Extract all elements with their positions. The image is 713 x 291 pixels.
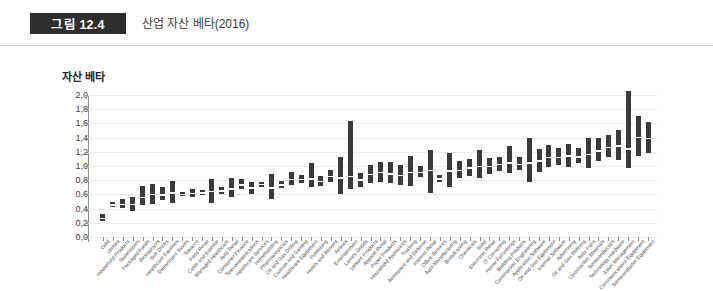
median-marker: [537, 160, 542, 162]
y-axis-line: [88, 95, 89, 242]
median-marker: [418, 172, 423, 174]
range-bar: [160, 187, 165, 200]
range-bar: [487, 158, 492, 174]
range-bar: [110, 202, 115, 208]
y-axis-tick-mark: [85, 209, 88, 210]
range-bar: [200, 190, 205, 195]
median-marker: [309, 178, 314, 180]
y-axis-tick-mark: [85, 152, 88, 153]
y-axis-tick-mark: [85, 237, 88, 238]
range-bar: [309, 163, 314, 187]
median-marker: [358, 179, 363, 181]
median-marker: [150, 194, 155, 196]
range-bar: [239, 179, 244, 189]
range-bar: [180, 192, 185, 196]
y-axis-tick-mark: [85, 223, 88, 224]
range-bar: [299, 175, 304, 184]
range-bar: [368, 165, 373, 183]
range-bar: [576, 148, 581, 163]
gridline: [88, 95, 657, 96]
median-marker: [556, 157, 561, 159]
range-bar: [586, 138, 591, 169]
range-bar: [328, 170, 333, 181]
median-marker: [170, 192, 175, 194]
median-marker: [457, 170, 462, 172]
range-bar: [120, 199, 125, 208]
range-bar: [289, 172, 294, 185]
range-bar: [566, 144, 571, 167]
median-marker: [507, 162, 512, 164]
plot-area: [88, 90, 657, 242]
range-bar: [358, 173, 363, 186]
range-bar: [378, 162, 383, 181]
range-bar: [209, 179, 214, 202]
median-marker: [576, 156, 581, 158]
median-marker: [140, 197, 145, 199]
range-bar: [398, 165, 403, 186]
median-marker: [428, 170, 433, 172]
median-marker: [120, 204, 125, 206]
median-marker: [408, 172, 413, 174]
range-bar: [100, 214, 105, 221]
range-bar: [626, 91, 631, 168]
gridline: [88, 152, 657, 153]
median-marker: [338, 177, 343, 179]
median-marker: [130, 204, 135, 206]
median-marker: [546, 157, 551, 159]
range-bar: [636, 116, 641, 156]
range-bar: [130, 197, 135, 210]
median-marker: [487, 166, 492, 168]
range-bar: [418, 166, 423, 177]
range-bar: [318, 176, 323, 186]
median-marker: [209, 191, 214, 193]
chart-panel: 자산 베타 0,00,20,40,60,81,01,21,41,61,82,0 …: [0, 46, 713, 278]
gridline: [88, 138, 657, 139]
range-bar: [606, 135, 611, 158]
median-marker: [160, 194, 165, 196]
median-marker: [616, 145, 621, 147]
range-bar: [646, 122, 651, 153]
gridline: [88, 223, 657, 224]
y-axis-tick-mark: [85, 95, 88, 96]
median-marker: [279, 184, 284, 186]
median-marker: [259, 184, 264, 186]
range-bar: [428, 150, 433, 193]
median-marker: [388, 173, 393, 175]
x-axis-category-labels: GoldUtilitiesHousehold ProductsSuperstor…: [88, 239, 688, 279]
median-marker: [447, 170, 452, 172]
median-marker: [239, 184, 244, 186]
median-marker: [200, 192, 205, 194]
range-bar: [249, 182, 254, 194]
median-marker: [110, 204, 115, 206]
y-axis-title: 자산 베타: [62, 68, 105, 84]
range-bar: [408, 156, 413, 186]
range-bar: [388, 162, 393, 183]
range-bar: [279, 181, 284, 188]
range-bar: [338, 157, 343, 195]
figure-caption: 산업 자산 베타(2016): [142, 14, 249, 31]
range-bar: [140, 186, 145, 205]
range-bar: [477, 150, 482, 178]
median-marker: [398, 175, 403, 177]
y-axis-tick-mark: [85, 109, 88, 110]
figure-number-badge: 그림 12.4: [30, 13, 126, 34]
median-marker: [596, 150, 601, 152]
range-bar: [537, 149, 542, 172]
range-bar: [467, 159, 472, 176]
range-bar: [546, 145, 551, 168]
range-bar: [616, 130, 621, 160]
figure-header: 그림 12.4 산업 자산 베타(2016): [0, 0, 713, 46]
gridline: [88, 209, 657, 210]
median-marker: [646, 138, 651, 140]
median-marker: [368, 174, 373, 176]
gridline: [88, 123, 657, 124]
range-bar: [447, 153, 452, 186]
y-axis-tick-labels: 0,00,20,40,60,81,01,21,41,61,82,0: [58, 90, 88, 242]
range-bar: [269, 174, 274, 199]
median-marker: [378, 172, 383, 174]
median-marker: [249, 187, 254, 189]
gridline: [88, 109, 657, 110]
median-marker: [190, 193, 195, 195]
range-bar: [150, 184, 155, 204]
median-marker: [318, 181, 323, 183]
